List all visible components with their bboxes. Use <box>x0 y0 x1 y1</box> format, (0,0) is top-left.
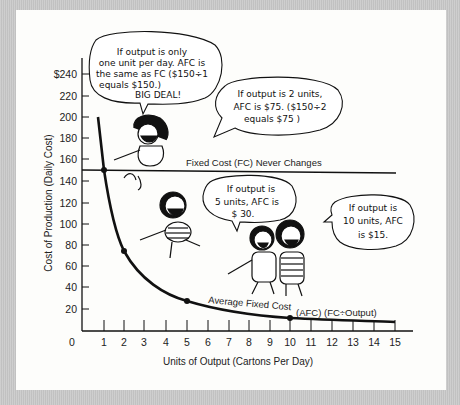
bubble-1-line-2: one unit per day. AFC is <box>99 58 206 68</box>
speech-bubble-2: If output is 2 units, AFC is $75. ($150÷… <box>214 77 342 137</box>
bubble-2-line-1: If output is 2 units, <box>238 89 323 99</box>
x-tick-14: 14 <box>368 336 380 348</box>
y-tick-40: 40 <box>65 281 77 293</box>
x-tick-labels: 0 1 2 3 4 5 6 7 8 9 10 11 12 13 14 15 <box>69 336 401 348</box>
fc-line <box>82 170 396 173</box>
x-tick-1: 1 <box>101 336 107 348</box>
bubble-4-line-3: is $15. <box>358 230 388 240</box>
y-tick-60: 60 <box>65 260 77 272</box>
y-tick-labels: $240 220 200 180 160 140 120 100 80 60 4… <box>54 68 78 315</box>
y-tick-120: 120 <box>59 197 77 209</box>
bubble-1-line-4: equals $150.) <box>99 80 161 90</box>
y-tick-80: 80 <box>65 239 77 251</box>
x-tick-12: 12 <box>326 336 338 348</box>
x-tick-8: 8 <box>246 336 252 348</box>
point-1-150 <box>101 167 107 173</box>
point-2-75 <box>121 248 127 254</box>
x-tick-7: 7 <box>226 336 232 348</box>
cartoon-character-sitting-girl-icon <box>114 115 168 190</box>
bubble-1-line-3: the same as FC ($150÷1 <box>96 69 208 79</box>
y-tick-20: 20 <box>65 303 77 315</box>
x-tick-13: 13 <box>347 336 359 348</box>
x-tick-6: 6 <box>205 336 211 348</box>
cartoon-character-pair-icon <box>228 220 304 296</box>
x-tick-4: 4 <box>163 336 169 348</box>
point-10-15 <box>287 315 293 321</box>
bubble-4-line-2: 10 units, AFC <box>343 216 403 226</box>
y-ticks <box>82 74 89 309</box>
afc-line-label-b: (AFC) (FC÷Output) <box>296 307 377 318</box>
y-tick-140: 140 <box>59 175 77 187</box>
y-tick-100: 100 <box>59 218 77 230</box>
x-tick-2: 2 <box>121 336 127 348</box>
cartoon-character-jumping-boy-icon <box>140 192 200 258</box>
bubble-1-line-1: If output is only <box>117 47 188 57</box>
x-tick-9: 9 <box>267 336 273 348</box>
speech-bubble-4: If output is 10 units, AFC is $15. <box>324 195 414 250</box>
bubble-3-line-1: If output is <box>227 184 276 194</box>
speech-bubble-1: If output is only one unit per day. AFC … <box>89 32 222 114</box>
bubble-4-line-1: If output is <box>349 203 398 213</box>
afc-chart: $240 220 200 180 160 140 120 100 80 60 4… <box>0 0 460 405</box>
point-5-30 <box>184 298 190 304</box>
x-tick-0: 0 <box>69 336 75 348</box>
bubble-1-line-5: BIG DEAL! <box>135 90 181 100</box>
y-tick-160: 160 <box>59 153 77 165</box>
y-axis-title: Cost of Production (Daily Cost) <box>43 134 54 271</box>
y-tick-200: 200 <box>59 111 77 123</box>
bubble-3-line-2: 5 units, AFC is <box>215 197 279 207</box>
x-axis-title: Units of Output (Cartons Per Day) <box>163 356 313 367</box>
x-tick-15: 15 <box>389 336 401 348</box>
x-tick-10: 10 <box>284 336 296 348</box>
x-tick-11: 11 <box>306 336 317 348</box>
y-tick-240: $240 <box>54 68 78 80</box>
bubble-2-line-3: equals $75 ) <box>244 114 300 124</box>
bubble-3-line-3: $ 30. <box>232 209 255 219</box>
bubble-2-line-2: AFC is $75. ($150÷2 <box>233 102 326 112</box>
y-tick-220: 220 <box>59 90 77 102</box>
fc-line-label: Fixed Cost (FC) Never Changes <box>186 157 322 168</box>
y-tick-180: 180 <box>59 132 77 144</box>
x-tick-3: 3 <box>141 336 147 348</box>
x-tick-5: 5 <box>184 336 190 348</box>
